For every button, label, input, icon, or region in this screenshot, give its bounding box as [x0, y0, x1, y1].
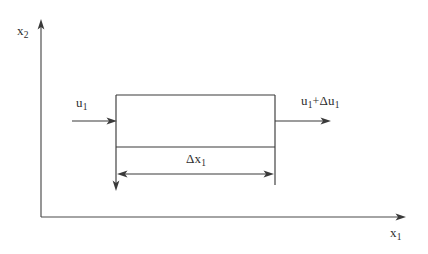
- axis-x1-label-sub: 1: [397, 232, 402, 242]
- axis-x1-label-main: x: [390, 225, 397, 240]
- inflow-label-sub: 1: [83, 102, 88, 112]
- outflow-label-prefix: u: [301, 93, 308, 108]
- axis-x1-label: x1: [390, 226, 401, 239]
- dimension-label-main: Δx: [186, 151, 201, 166]
- axis-x2-label: x2: [17, 24, 28, 37]
- dimension-arrow-dx1: [117, 171, 274, 178]
- outflow-arrow: [275, 118, 331, 125]
- dimension-label-sub: 1: [201, 158, 206, 168]
- dimension-label-dx1: Δx1: [186, 152, 206, 165]
- inflow-label-u1: u1: [76, 96, 87, 109]
- inflow-arrow: [72, 118, 117, 125]
- axis-x2-vertical: [38, 19, 45, 217]
- outflow-label-delta: Δu: [319, 93, 334, 108]
- axis-x1-horizontal: [41, 214, 406, 221]
- control-volume-diagram: x2 x1 u1 u1+Δu1 Δx1: [0, 0, 428, 254]
- outflow-label-u1-plus-du1: u1+Δu1: [301, 94, 339, 107]
- axis-x2-label-main: x: [17, 23, 24, 38]
- diagram-canvas: [0, 0, 428, 254]
- outflow-label-delta-sub: 1: [335, 100, 340, 110]
- control-volume-box: [113, 95, 275, 191]
- inflow-label-main: u: [76, 95, 83, 110]
- axis-x2-label-sub: 2: [24, 30, 29, 40]
